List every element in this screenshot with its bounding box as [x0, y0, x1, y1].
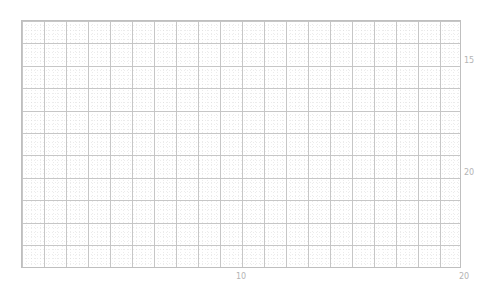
y-axis-tick-label-15: 15 — [464, 57, 474, 65]
plot-area[interactable] — [21, 20, 461, 268]
minor-horizontal-gridlines — [22, 21, 460, 267]
data-series-layer — [22, 21, 460, 267]
major-vertical-gridlines — [22, 21, 460, 267]
x-axis-tick-label-10: 10 — [236, 273, 246, 281]
x-axis-tick-label-20: 20 — [459, 273, 469, 281]
chart-figure: 15 20 10 20 — [0, 0, 493, 300]
major-horizontal-gridlines — [22, 21, 460, 267]
minor-vertical-gridlines — [22, 21, 460, 267]
y-axis-tick-label-20: 20 — [464, 169, 474, 177]
